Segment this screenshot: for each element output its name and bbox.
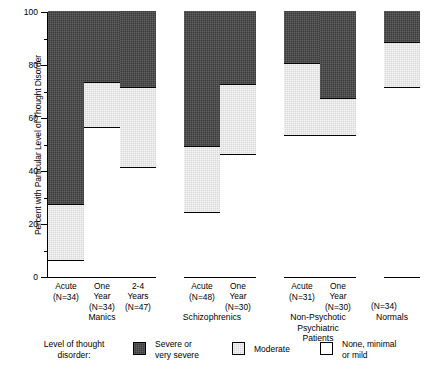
group-label-line1: Schizophrenics <box>172 312 252 323</box>
segment-severe <box>84 11 120 83</box>
legend-label-severe-line2: very severe <box>155 350 229 361</box>
group-label-line2: Psychiatric <box>272 323 364 334</box>
y-tick-40 <box>41 171 47 172</box>
legend-swatch-none[interactable] <box>320 342 333 355</box>
segment-moderate <box>184 147 220 214</box>
legend-title-line1: Level of thought <box>26 339 122 350</box>
y-tick-label-60: 60 <box>0 114 38 123</box>
y-tick-60 <box>41 118 47 119</box>
bar-group-non-psychotic <box>284 12 356 278</box>
x-label-line1: Acute <box>282 281 322 291</box>
segment-none <box>120 168 156 277</box>
group-label-normals: Normals <box>364 312 420 323</box>
x-label-line1: 2-4 <box>118 281 158 291</box>
bar-schizophrenics-one-year[interactable] <box>220 12 256 278</box>
y-tick-label-80: 80 <box>0 61 38 70</box>
segment-none <box>320 136 356 277</box>
x-label-nonpsychotic-acute: Acute (N=31) <box>282 281 322 302</box>
group-label-schizophrenics: Schizophrenics <box>172 312 252 323</box>
x-label-n: (N=31) <box>282 292 322 302</box>
y-tick-30 <box>44 198 48 199</box>
legend-label-none-line1: None, minimal <box>342 339 426 350</box>
thought-disorder-stacked-bar-chart: Percent with Particular Level of Thought… <box>0 0 426 374</box>
y-tick-0 <box>41 277 47 278</box>
bar-schizophrenics-acute[interactable] <box>184 12 220 278</box>
x-label-manics-2-4-years: 2-4 Years (N=47) <box>118 281 158 312</box>
bar-normals[interactable] <box>384 12 420 278</box>
legend-swatch-moderate[interactable] <box>232 342 245 355</box>
y-tick-label-0: 0 <box>0 273 38 282</box>
y-tick-70 <box>44 92 48 93</box>
x-label-line2: Year <box>82 291 122 301</box>
x-label-line1: One <box>218 281 258 291</box>
y-tick-label-40: 40 <box>0 167 38 176</box>
segment-moderate <box>48 205 84 261</box>
segment-none <box>384 88 420 277</box>
y-tick-20 <box>41 224 47 225</box>
segment-severe <box>384 11 420 43</box>
bar-group-manics <box>48 12 156 278</box>
y-tick-50 <box>44 145 48 146</box>
legend: Level of thought disorder: Severe or ver… <box>0 336 426 374</box>
segment-moderate <box>320 99 356 136</box>
x-label-line2: Year <box>218 291 258 301</box>
x-label-n: (N=30) <box>218 302 258 312</box>
x-label-line1: One <box>318 281 358 291</box>
group-label-line1: Non-Psychotic <box>272 312 364 323</box>
legend-label-moderate-line1: Moderate <box>254 344 322 355</box>
x-label-line1: Acute <box>46 281 86 291</box>
x-label-n: (N=30) <box>318 302 358 312</box>
bar-group-normals <box>384 12 420 278</box>
group-label-manics: Manics <box>46 312 158 323</box>
legend-label-none: None, minimal or mild <box>342 339 426 360</box>
segment-moderate <box>284 64 320 136</box>
segment-severe <box>284 11 320 64</box>
group-label-line1: Manics <box>46 312 158 323</box>
bar-nonpsychotic-acute[interactable] <box>284 12 320 278</box>
y-tick-90 <box>44 39 48 40</box>
y-tick-label-20: 20 <box>0 220 38 229</box>
legend-title: Level of thought disorder: <box>26 339 122 360</box>
plot-area <box>48 12 420 278</box>
x-label-n: (N=34) <box>46 292 86 302</box>
legend-label-severe: Severe or very severe <box>155 339 229 360</box>
x-label-n: (N=48) <box>182 292 222 302</box>
group-label-line1: Normals <box>364 312 420 323</box>
legend-label-severe-line1: Severe or <box>155 339 229 350</box>
y-tick-10 <box>44 251 48 252</box>
segment-moderate <box>84 83 120 128</box>
legend-label-none-line2: or mild <box>342 350 426 361</box>
legend-swatch-severe[interactable] <box>133 342 146 355</box>
segment-severe <box>48 11 84 205</box>
x-label-nonpsychotic-one-year: One Year (N=30) <box>318 281 358 312</box>
segment-severe <box>320 11 356 99</box>
x-label-manics-acute: Acute (N=34) <box>46 281 86 302</box>
segment-none <box>284 136 320 277</box>
x-label-manics-one-year: One Year (N=34) <box>82 281 122 312</box>
y-tick-80 <box>41 65 47 66</box>
legend-label-moderate: Moderate <box>254 344 322 355</box>
segment-none <box>184 213 220 277</box>
x-label-line2: Year <box>318 291 358 301</box>
x-label-normals: (N=34) <box>364 301 404 311</box>
y-tick-100 <box>41 12 47 13</box>
x-label-n: (N=34) <box>82 302 122 312</box>
bar-manics-acute[interactable] <box>48 12 84 278</box>
y-axis-title: Percent with Particular Level of Thought… <box>33 10 43 280</box>
bar-manics-2-4-years[interactable] <box>120 12 156 278</box>
segment-severe <box>184 11 220 147</box>
bar-manics-one-year[interactable] <box>84 12 120 278</box>
x-label-line1: One <box>82 281 122 291</box>
bar-group-schizophrenics <box>184 12 256 278</box>
segment-moderate <box>120 88 156 168</box>
segment-moderate <box>220 85 256 154</box>
x-label-schizophrenics-one-year: One Year (N=30) <box>218 281 258 312</box>
segment-severe <box>220 11 256 85</box>
legend-title-line2: disorder: <box>26 350 122 361</box>
bar-nonpsychotic-one-year[interactable] <box>320 12 356 278</box>
x-label-line2: Years <box>118 291 158 301</box>
segment-none <box>220 155 256 277</box>
x-label-schizophrenics-acute: Acute (N=48) <box>182 281 222 302</box>
x-label-n: (N=34) <box>364 301 404 311</box>
x-label-line1: Acute <box>182 281 222 291</box>
